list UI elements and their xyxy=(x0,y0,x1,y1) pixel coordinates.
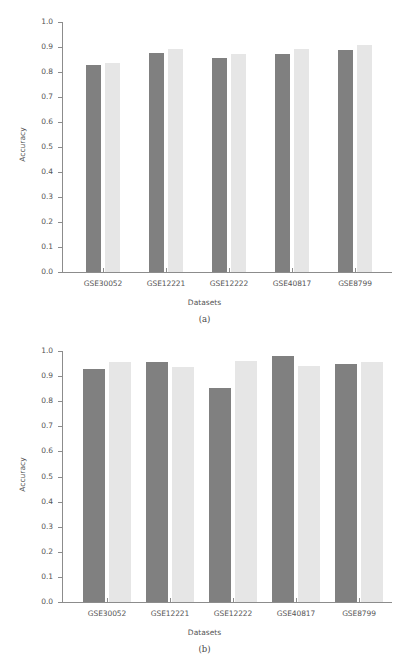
y-tick-mark xyxy=(58,47,62,48)
y-tick-mark xyxy=(58,122,62,123)
y-tick-label: 0.6 xyxy=(29,447,53,455)
y-tick-mark xyxy=(58,147,62,148)
y-tick-mark xyxy=(58,272,62,273)
x-tick-label-GSE12221: GSE12221 xyxy=(136,279,196,288)
x-tick-mark xyxy=(166,268,167,272)
y-tick-label: 0.7 xyxy=(29,422,53,430)
bar-GSE8799-series-2 xyxy=(361,362,383,602)
panel-caption-b: (b) xyxy=(0,644,409,654)
y-tick-mark xyxy=(58,72,62,73)
x-tick-mark xyxy=(107,598,108,602)
y-tick-label: 1.0 xyxy=(29,347,53,355)
x-axis-title-a: Datasets xyxy=(0,298,409,307)
x-tick-mark xyxy=(355,268,356,272)
bar-GSE12221-series-2 xyxy=(168,49,183,272)
bar-GSE12221-series-1 xyxy=(149,53,164,273)
y-tick-label: 0.5 xyxy=(29,143,53,151)
x-tick-mark xyxy=(292,268,293,272)
bar-GSE30052-series-1 xyxy=(83,369,105,602)
y-tick-label: 0.3 xyxy=(29,523,53,531)
x-tick-label-GSE40817: GSE40817 xyxy=(266,609,326,618)
y-tick-label: 0.4 xyxy=(29,168,53,176)
x-tick-label-GSE40817: GSE40817 xyxy=(262,279,322,288)
y-axis-title-b: Accuracy xyxy=(18,445,27,505)
x-tick-mark xyxy=(229,268,230,272)
y-tick-mark xyxy=(58,97,62,98)
bar-GSE12222-series-2 xyxy=(231,54,246,272)
x-axis-line xyxy=(62,272,392,273)
x-tick-label-GSE12221: GSE12221 xyxy=(140,609,200,618)
bar-GSE12222-series-2 xyxy=(235,361,257,602)
y-tick-label: 0.7 xyxy=(29,93,53,101)
y-tick-label: 0.4 xyxy=(29,498,53,506)
bar-GSE40817-series-2 xyxy=(294,49,309,272)
y-tick-mark xyxy=(58,376,62,377)
x-axis-title-b: Datasets xyxy=(0,628,409,637)
chart-panel-b: 1.00.90.80.70.60.50.40.30.20.10.0GSE3005… xyxy=(0,320,409,652)
y-tick-label: 0.1 xyxy=(29,243,53,251)
bar-GSE12221-series-2 xyxy=(172,367,194,602)
y-tick-label: 0.9 xyxy=(29,372,53,380)
x-tick-mark xyxy=(170,598,171,602)
y-tick-label: 0.8 xyxy=(29,68,53,76)
y-tick-label: 0.0 xyxy=(29,598,53,606)
y-tick-mark xyxy=(58,552,62,553)
y-tick-label: 0.2 xyxy=(29,218,53,226)
y-axis-line xyxy=(62,22,63,272)
bar-GSE30052-series-2 xyxy=(109,362,131,602)
x-tick-mark xyxy=(296,598,297,602)
y-tick-mark xyxy=(58,451,62,452)
x-tick-label-GSE12222: GSE12222 xyxy=(199,279,259,288)
bar-GSE8799-series-2 xyxy=(357,45,372,272)
y-tick-label: 0.6 xyxy=(29,118,53,126)
y-axis-line xyxy=(62,351,63,602)
bar-GSE12222-series-1 xyxy=(209,388,231,602)
x-axis-line xyxy=(62,602,392,603)
y-tick-label: 0.2 xyxy=(29,548,53,556)
y-tick-mark xyxy=(58,527,62,528)
bar-GSE12222-series-1 xyxy=(212,58,227,272)
y-tick-mark xyxy=(58,401,62,402)
bar-GSE8799-series-1 xyxy=(338,50,353,272)
x-tick-label-GSE30052: GSE30052 xyxy=(77,609,137,618)
bar-GSE8799-series-1 xyxy=(335,364,357,602)
x-tick-label-GSE12222: GSE12222 xyxy=(203,609,263,618)
bar-GSE40817-series-1 xyxy=(275,54,290,272)
bar-GSE30052-series-2 xyxy=(105,63,120,272)
y-tick-label: 0.8 xyxy=(29,397,53,405)
chart-panel-a: 1.00.90.80.70.60.50.40.30.20.10.0GSE3005… xyxy=(0,0,409,330)
y-tick-label: 0.0 xyxy=(29,268,53,276)
bar-GSE30052-series-1 xyxy=(86,65,101,272)
y-tick-mark xyxy=(58,172,62,173)
y-tick-mark xyxy=(58,577,62,578)
y-tick-mark xyxy=(58,426,62,427)
y-tick-mark xyxy=(58,197,62,198)
y-tick-label: 0.9 xyxy=(29,43,53,51)
x-tick-mark xyxy=(233,598,234,602)
y-tick-mark xyxy=(58,602,62,603)
y-tick-mark xyxy=(58,477,62,478)
bar-GSE40817-series-1 xyxy=(272,356,294,602)
y-tick-mark xyxy=(58,22,62,23)
y-tick-label: 1.0 xyxy=(29,18,53,26)
y-tick-mark xyxy=(58,351,62,352)
y-tick-mark xyxy=(58,502,62,503)
x-tick-mark xyxy=(103,268,104,272)
y-axis-title-a: Accuracy xyxy=(18,115,27,175)
y-tick-mark xyxy=(58,247,62,248)
bar-GSE40817-series-2 xyxy=(298,366,320,602)
bar-GSE12221-series-1 xyxy=(146,362,168,602)
x-tick-label-GSE8799: GSE8799 xyxy=(329,609,389,618)
y-tick-label: 0.1 xyxy=(29,573,53,581)
x-tick-label-GSE8799: GSE8799 xyxy=(325,279,385,288)
y-tick-mark xyxy=(58,222,62,223)
y-tick-label: 0.5 xyxy=(29,473,53,481)
y-tick-label: 0.3 xyxy=(29,193,53,201)
x-tick-label-GSE30052: GSE30052 xyxy=(73,279,133,288)
x-tick-mark xyxy=(359,598,360,602)
